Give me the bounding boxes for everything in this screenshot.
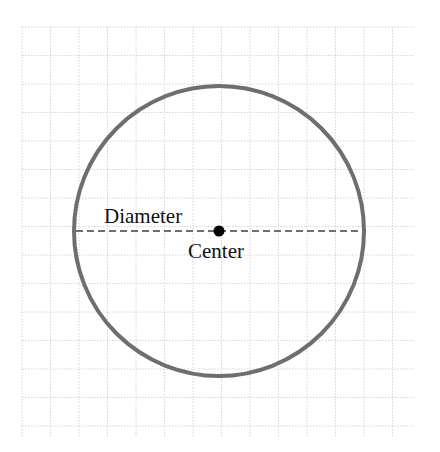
center-dot xyxy=(214,226,225,237)
diameter-label: Diameter xyxy=(104,204,182,228)
center-label: Center xyxy=(188,239,244,263)
circle-diagram: Diameter Center xyxy=(0,0,440,452)
